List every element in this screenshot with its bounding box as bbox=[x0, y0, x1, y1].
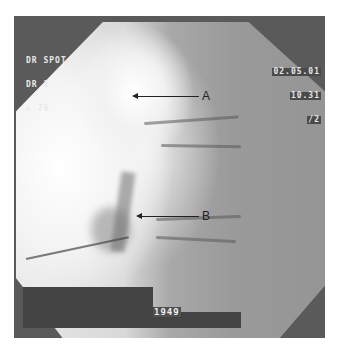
label-a: A bbox=[202, 89, 210, 103]
overlay-value: ◇ 76 bbox=[26, 105, 67, 113]
overlay-mode: DR SPOT bbox=[26, 57, 67, 65]
arrow-a bbox=[137, 96, 199, 97]
redaction-bar-upper bbox=[23, 287, 153, 315]
disc-space-middle bbox=[161, 144, 241, 148]
overlay-time: 10.31 bbox=[290, 92, 321, 100]
arrow-b bbox=[141, 216, 199, 217]
disc-space-upper bbox=[144, 115, 239, 125]
overlay-top-left: DR SPOT DR 1 ◇ 76 bbox=[26, 41, 67, 129]
redaction-bar-lower bbox=[23, 312, 241, 328]
overlay-bottom-label: 1949 bbox=[153, 307, 181, 317]
overlay-top-right: 02.05.01 10.31 /2 bbox=[272, 52, 321, 140]
arrowhead-icon bbox=[132, 93, 138, 99]
disc-space-lower-2 bbox=[156, 236, 236, 243]
overlay-channel: DR 1 bbox=[26, 81, 67, 89]
xray-frame: DR SPOT DR 1 ◇ 76 02.05.01 10.31 /2 1949 bbox=[14, 16, 325, 338]
label-b: B bbox=[202, 209, 210, 223]
overlay-frame-index: /2 bbox=[307, 116, 321, 124]
arrowhead-icon bbox=[136, 213, 142, 219]
soft-tissue-shadow bbox=[91, 207, 131, 252]
overlay-date: 02.05.01 bbox=[272, 68, 321, 76]
